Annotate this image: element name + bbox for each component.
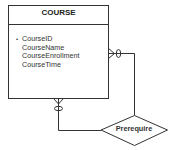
attribute-list: • CourseID CourseName CourseEnrollment C… [22,35,80,70]
right-connector [109,49,135,116]
attribute-name: CourseTime [22,60,61,69]
entity-title: COURSE [9,8,108,17]
primary-key-marker: • [16,35,18,44]
attribute-item: CourseTime [22,61,80,70]
crows-foot-icon [109,49,115,54]
bottom-connector [54,99,102,131]
relationship-label: Prerequire [104,124,164,133]
attribute-name: CourseName [22,43,64,52]
crows-foot-icon [54,99,59,105]
attribute-name: CourseID [22,34,52,43]
attribute-name: CourseEnrollment [22,51,80,60]
